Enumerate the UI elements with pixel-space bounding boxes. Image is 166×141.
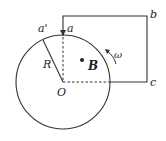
label-r: R xyxy=(42,58,51,71)
label-b: b xyxy=(150,8,157,21)
diagram-canvas: a' a b c O R B ω xyxy=(0,0,166,141)
field-dot-icon xyxy=(80,58,84,62)
label-o: O xyxy=(57,86,66,99)
label-c: c xyxy=(150,76,156,89)
label-b-field: B xyxy=(87,59,98,73)
label-a: a xyxy=(67,22,74,35)
diagram-svg: a' a b c O R B ω xyxy=(0,0,166,141)
label-omega: ω xyxy=(114,49,122,60)
label-a-prime: a' xyxy=(38,22,48,35)
